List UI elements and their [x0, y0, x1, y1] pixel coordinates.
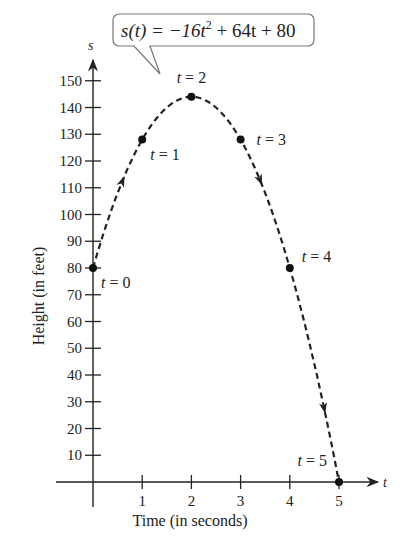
point-label: t = 5 — [298, 452, 327, 469]
x-axis-variable-label: t — [383, 475, 388, 490]
equation-callout: s(t) = −16t2 + 64t + 80 — [113, 14, 314, 74]
point-label: t = 2 — [177, 69, 206, 86]
y-tick-label: 10 — [67, 447, 82, 463]
y-tick-label: 30 — [67, 394, 82, 410]
x-tick-label: 5 — [335, 493, 343, 509]
x-ticks: 12345 — [138, 475, 342, 509]
x-tick-label: 1 — [138, 493, 146, 509]
projectile-height-chart: 12345 1020304050607080901001101201301401… — [0, 0, 404, 552]
y-tick-label: 110 — [60, 180, 82, 196]
y-tick-label: 90 — [67, 233, 82, 249]
y-axis-variable-label: s — [88, 38, 94, 53]
point-label: t = 0 — [101, 274, 130, 291]
y-tick-label: 100 — [60, 207, 83, 223]
y-tick-label: 80 — [67, 260, 82, 276]
point-label: t = 4 — [302, 248, 331, 265]
y-tick-label: 60 — [67, 314, 82, 330]
direction-arrows — [117, 174, 330, 415]
direction-arrow-icon — [254, 174, 266, 187]
y-tick-label: 140 — [60, 100, 83, 116]
y-tick-label: 40 — [67, 367, 82, 383]
data-point — [237, 136, 245, 144]
y-tick-label: 20 — [67, 421, 82, 437]
y-tick-label: 150 — [60, 73, 83, 89]
data-points: t = 0t = 1t = 2t = 3t = 4t = 5 — [89, 69, 343, 486]
y-tick-label: 50 — [67, 340, 82, 356]
data-point — [335, 478, 343, 486]
data-point — [138, 136, 146, 144]
data-point — [187, 93, 195, 101]
y-tick-label: 70 — [67, 287, 82, 303]
x-tick-label: 4 — [286, 493, 294, 509]
y-tick-label: 130 — [60, 126, 83, 142]
y-axis-title: Height (in feet) — [30, 247, 48, 346]
point-label: t = 1 — [150, 146, 179, 163]
y-tick-label: 120 — [60, 153, 83, 169]
x-axis-title: Time (in seconds) — [133, 512, 248, 530]
x-tick-label: 3 — [237, 493, 245, 509]
x-tick-label: 2 — [188, 493, 196, 509]
data-point — [89, 264, 97, 272]
point-label: t = 3 — [257, 131, 286, 148]
data-point — [286, 264, 294, 272]
direction-arrow-icon — [117, 175, 129, 188]
